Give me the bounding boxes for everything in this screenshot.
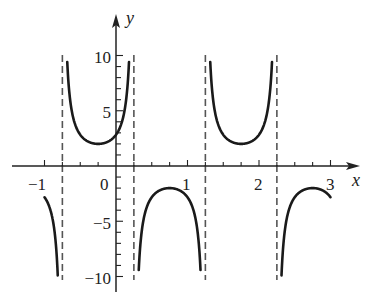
x-tick-label-1: 1 (182, 175, 191, 194)
x-tick-label-minus-1: −1 (28, 175, 46, 194)
x-axis-label: x (351, 170, 360, 190)
y-axis-label: y (124, 8, 134, 28)
csc-branch (45, 197, 58, 275)
csc-branch (139, 188, 201, 270)
csc-branch (210, 62, 272, 144)
y-tick-label-5: 5 (103, 103, 112, 122)
x-tick-label-0: 0 (100, 175, 109, 194)
x-tick-label-2: 2 (254, 175, 263, 194)
axes (12, 14, 360, 292)
csc-graph: −1 0 1 2 3 10 5 −5 −10 x y (0, 0, 381, 298)
y-tick-label-minus-5: −5 (93, 214, 111, 233)
csc-branch (67, 62, 129, 144)
csc-branch (282, 188, 331, 275)
y-tick-label-10: 10 (94, 48, 111, 67)
y-tick-label-minus-10: −10 (84, 269, 111, 288)
cosecant-curves (45, 62, 331, 275)
vertical-asymptotes (62, 55, 277, 280)
x-tick-label-3: 3 (326, 175, 335, 194)
